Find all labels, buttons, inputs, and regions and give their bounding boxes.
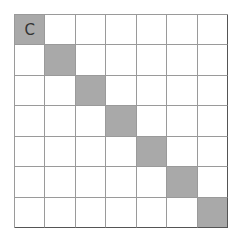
- board-cell-r3-c5[interactable]: [167, 106, 197, 136]
- board-cell-r4-c4[interactable]: [137, 137, 167, 167]
- game-board: C: [14, 14, 228, 228]
- board-cell-r3-c2[interactable]: [76, 106, 106, 136]
- board-cell-r3-c3[interactable]: [106, 106, 136, 136]
- board-cell-r0-c3[interactable]: [106, 15, 136, 45]
- board-cell-r0-c4[interactable]: [137, 15, 167, 45]
- board-cell-r2-c6[interactable]: [198, 76, 228, 106]
- board-cell-r3-c4[interactable]: [137, 106, 167, 136]
- board-cell-r2-c1[interactable]: [45, 76, 75, 106]
- board-cell-r1-c0[interactable]: [15, 45, 45, 75]
- board-cell-r4-c2[interactable]: [76, 137, 106, 167]
- board-cell-r6-c3[interactable]: [106, 198, 136, 228]
- board-cell-r2-c3[interactable]: [106, 76, 136, 106]
- board-cell-r5-c5[interactable]: [167, 167, 197, 197]
- board-cell-r3-c1[interactable]: [45, 106, 75, 136]
- board-cell-r2-c2[interactable]: [76, 76, 106, 106]
- board-cell-r3-c6[interactable]: [198, 106, 228, 136]
- board-cell-r5-c1[interactable]: [45, 167, 75, 197]
- board-cell-r6-c0[interactable]: [15, 198, 45, 228]
- board-cell-r5-c6[interactable]: [198, 167, 228, 197]
- board-cell-r0-c2[interactable]: [76, 15, 106, 45]
- board-cell-r4-c5[interactable]: [167, 137, 197, 167]
- board-cell-r2-c0[interactable]: [15, 76, 45, 106]
- board-cell-r0-c0[interactable]: C: [15, 15, 45, 45]
- board-cell-r6-c4[interactable]: [137, 198, 167, 228]
- board-cell-r1-c4[interactable]: [137, 45, 167, 75]
- board-cell-r6-c6[interactable]: [198, 198, 228, 228]
- board-cell-r0-c5[interactable]: [167, 15, 197, 45]
- board-cell-r3-c0[interactable]: [15, 106, 45, 136]
- board-cell-r1-c2[interactable]: [76, 45, 106, 75]
- board-cell-r5-c2[interactable]: [76, 167, 106, 197]
- board-cell-r1-c1[interactable]: [45, 45, 75, 75]
- board-cell-r1-c5[interactable]: [167, 45, 197, 75]
- board-cell-r1-c6[interactable]: [198, 45, 228, 75]
- board-cell-r4-c3[interactable]: [106, 137, 136, 167]
- board-cell-r5-c0[interactable]: [15, 167, 45, 197]
- board-cell-r4-c1[interactable]: [45, 137, 75, 167]
- board-cell-r6-c1[interactable]: [45, 198, 75, 228]
- board-cell-r0-c6[interactable]: [198, 15, 228, 45]
- board-cell-r1-c3[interactable]: [106, 45, 136, 75]
- board-cell-r2-c5[interactable]: [167, 76, 197, 106]
- board-cell-r6-c2[interactable]: [76, 198, 106, 228]
- board-cell-r6-c5[interactable]: [167, 198, 197, 228]
- board-cell-r4-c6[interactable]: [198, 137, 228, 167]
- board-cell-r4-c0[interactable]: [15, 137, 45, 167]
- board-cell-r0-c1[interactable]: [45, 15, 75, 45]
- board-cell-r5-c4[interactable]: [137, 167, 167, 197]
- board-cell-r5-c3[interactable]: [106, 167, 136, 197]
- board-cell-r2-c4[interactable]: [137, 76, 167, 106]
